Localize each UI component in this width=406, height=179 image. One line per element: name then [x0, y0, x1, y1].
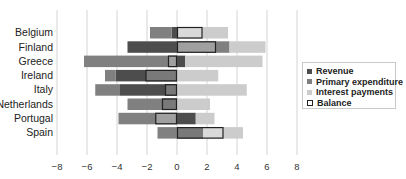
- legend: Revenue Primary expenditure Interest pay…: [302, 62, 396, 109]
- legend-label: Interest payments: [316, 87, 393, 97]
- balance-swatch-icon: [307, 100, 313, 106]
- bar-segment-interest-payments: [196, 113, 215, 125]
- balance-box: [178, 42, 216, 53]
- x-tick-label: 0: [174, 161, 179, 172]
- x-tick-label: −6: [82, 161, 93, 172]
- legend-label: Balance: [317, 98, 352, 108]
- category-label: Greece: [19, 55, 54, 67]
- category-label: Finland: [19, 41, 54, 53]
- category-labels: BelgiumFinlandGreeceIrelandItalyNetherla…: [0, 26, 54, 138]
- bar-segment-interest-payments: [177, 84, 247, 96]
- category-label: Belgium: [15, 26, 53, 38]
- x-axis-tick-labels: −8−6−4−202468: [52, 161, 300, 172]
- balance-box: [178, 128, 224, 139]
- balance-box: [156, 113, 177, 124]
- bar-segment-revenue: [172, 27, 177, 39]
- x-tick-label: 8: [294, 161, 299, 172]
- legend-label: Revenue: [316, 66, 354, 76]
- bar-segment-revenue: [128, 41, 178, 53]
- bar-segment-interest-payments: [185, 56, 262, 68]
- bar-segment-primary-expenditure: [158, 127, 178, 139]
- x-tick-label: 6: [264, 161, 269, 172]
- bar-segment-interest-payments: [230, 41, 266, 53]
- legend-item-primary-expenditure: Primary expenditure: [307, 77, 395, 88]
- category-label: Netherlands: [0, 98, 53, 110]
- bar-segment-primary-expenditure: [84, 56, 177, 68]
- x-tick-label: 2: [204, 161, 209, 172]
- bar-segment-primary-expenditure: [150, 27, 172, 39]
- bar-segment-primary-expenditure: [128, 99, 163, 111]
- primary-expenditure-swatch-icon: [307, 79, 312, 84]
- legend-item-interest-payments: Interest payments: [307, 87, 395, 98]
- balance-box: [169, 56, 177, 67]
- category-label: Italy: [34, 83, 54, 95]
- revenue-swatch-icon: [307, 69, 312, 74]
- balance-box: [163, 99, 177, 110]
- x-tick-label: −8: [52, 161, 63, 172]
- bar-segment-revenue: [177, 113, 196, 125]
- bar-segment-primary-expenditure: [95, 84, 120, 96]
- legend-label: Primary expenditure: [316, 77, 403, 87]
- legend-item-balance: Balance: [307, 98, 395, 109]
- x-tick-label: −2: [142, 161, 153, 172]
- bar-segment-primary-expenditure: [105, 70, 116, 82]
- balance-box: [178, 28, 203, 39]
- bar-segment-interest-payments: [177, 99, 210, 111]
- interest-payments-swatch-icon: [307, 90, 312, 95]
- category-label: Portugal: [14, 112, 53, 124]
- category-label: Spain: [26, 126, 53, 138]
- x-tick-label: −4: [112, 161, 123, 172]
- balance-box: [166, 85, 177, 96]
- x-tick-label: 4: [234, 161, 239, 172]
- legend-item-revenue: Revenue: [307, 66, 395, 77]
- bar-segment-revenue: [177, 56, 185, 68]
- balance-box: [146, 70, 177, 81]
- category-label: Ireland: [21, 69, 53, 81]
- bar-segment-interest-payments: [177, 70, 218, 82]
